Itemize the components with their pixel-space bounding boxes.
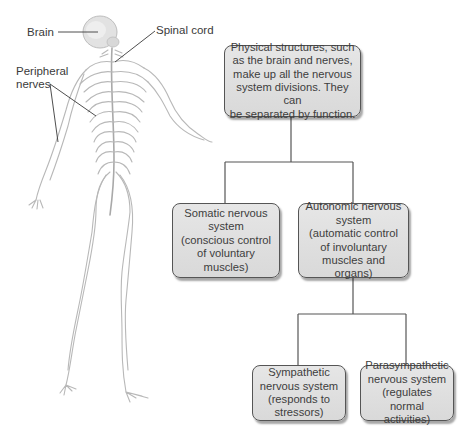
peripheral-nerves-pointer-arm xyxy=(50,84,58,142)
autonomic-text-line: Autonomic nervous xyxy=(302,200,405,213)
spinal-cord-pointer xyxy=(115,31,155,62)
parasympathetic-text-line: nervous system xyxy=(364,373,450,386)
autonomic-nervous-system-box: Autonomic nervous system (automatic cont… xyxy=(298,203,409,278)
somatic-text-line: of voluntary xyxy=(181,247,271,260)
autonomic-text-line: muscles and organs) xyxy=(302,254,405,281)
sympathetic-text-line: stressors) xyxy=(260,406,338,419)
autonomic-text-line: (automatic control xyxy=(302,227,405,240)
root-text-line: system divisions. They can xyxy=(228,81,357,108)
sympathetic-nervous-system-box: Sympathetic nervous system (responds to … xyxy=(252,365,346,421)
root-text-line: make up all the nervous xyxy=(228,68,357,81)
somatic-text-line: Somatic nervous xyxy=(181,207,271,220)
brain-label: Brain xyxy=(27,26,54,39)
parasympathetic-text-line: (regulates normal xyxy=(364,386,450,413)
root-text-line: as the brain and nerves, xyxy=(228,54,357,67)
somatic-text-line: muscles) xyxy=(181,261,271,274)
spinal-cord-label: Spinal cord xyxy=(156,24,214,37)
sympathetic-text-line: Sympathetic xyxy=(260,366,338,379)
somatic-nervous-system-box: Somatic nervous system (conscious contro… xyxy=(172,203,280,278)
autonomic-text-line: of involuntary xyxy=(302,241,405,254)
root-text-line: Physical structures, such xyxy=(228,41,357,54)
peripheral-nerves-label-line2: nerves xyxy=(16,78,68,91)
sympathetic-text-line: (responds to xyxy=(260,393,338,406)
root-box-physical-structures: Physical structures, such as the brain a… xyxy=(224,45,361,117)
peripheral-nerves-label-line1: Peripheral xyxy=(16,65,68,78)
autonomic-text-line: system xyxy=(302,214,405,227)
somatic-text-line: (conscious control xyxy=(181,234,271,247)
sympathetic-text-line: nervous system xyxy=(260,380,338,393)
peripheral-nerves-label: Peripheral nerves xyxy=(16,65,68,91)
parasympathetic-nervous-system-box: Parasympathetic nervous system (regulate… xyxy=(360,365,454,421)
parasympathetic-text-line: Parasympathetic xyxy=(364,359,450,372)
somatic-text-line: system xyxy=(181,220,271,233)
parasympathetic-text-line: activities) xyxy=(364,413,450,426)
root-text-line: be separated by function. xyxy=(228,108,357,121)
